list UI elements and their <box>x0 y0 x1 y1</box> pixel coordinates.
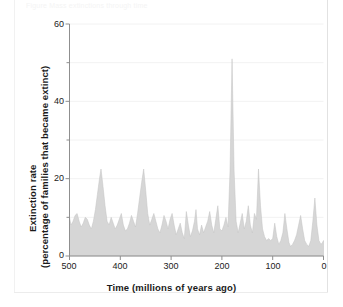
y-axis-title: Extinction rate (percentage of families … <box>0 0 44 270</box>
x-tick-label-300: 300 <box>156 261 186 271</box>
y-axis-title-line1: Extinction rate <box>27 165 38 233</box>
x-tick-label-0: 0 <box>309 261 339 271</box>
x-axis-title: Time (millions of years ago) <box>0 282 343 293</box>
x-tick-label-100: 100 <box>258 261 288 271</box>
gridlines-group <box>70 24 324 217</box>
extinction-rate-figure: Figure Mass extinctions through time 60 … <box>0 0 343 307</box>
x-tick-label-500: 500 <box>54 261 84 271</box>
x-tick-label-400: 400 <box>105 261 135 271</box>
x-tick-label-200: 200 <box>207 261 237 271</box>
y-axis-title-line2: (percentage of families that became exti… <box>39 66 50 268</box>
y-tick-label-60: 60 <box>44 19 64 29</box>
extinction-area-series <box>70 59 324 256</box>
